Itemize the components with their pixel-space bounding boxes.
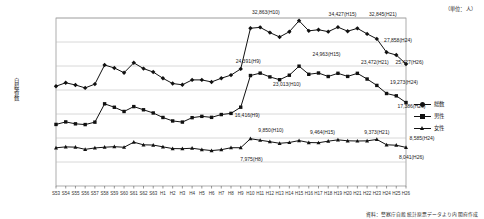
x-axis-tick-label: H6 — [209, 191, 215, 196]
data-point-label: 23,013(H10) — [273, 81, 301, 87]
x-axis-tick-label: H15 — [295, 191, 303, 196]
x-axis-tick-label: H16 — [305, 191, 313, 196]
x-axis-tick-label: H8 — [228, 191, 234, 196]
x-axis-tick-label: S61 — [130, 191, 138, 196]
x-axis-tick-label: H2 — [170, 191, 176, 196]
x-axis-tick-label: H22 — [363, 191, 371, 196]
x-axis-tick-label: H23 — [373, 191, 381, 196]
data-point-label: 9,464(H15) — [310, 129, 335, 135]
data-point-label: 8,041(H26) — [399, 154, 424, 160]
data-point-label: 32,845(H21) — [369, 11, 397, 17]
x-axis-tick-label: H10 — [246, 191, 254, 196]
x-axis-tick-label: H25 — [392, 191, 400, 196]
plot-area — [0, 0, 484, 219]
data-point-label: 9,373(H21) — [364, 129, 389, 135]
legend-label: 女性 — [434, 122, 444, 134]
x-axis-tick-label: H3 — [179, 191, 185, 196]
data-point-label: 16,416(H9) — [235, 112, 260, 118]
x-axis-tick-label: S57 — [91, 191, 99, 196]
x-axis-tick-label: H5 — [199, 191, 205, 196]
x-axis-tick-label: S59 — [110, 191, 118, 196]
x-axis-tick-label: S63 — [149, 191, 157, 196]
data-point-label: 24,391(H9) — [236, 58, 261, 64]
legend-label: 男性 — [434, 110, 444, 122]
x-axis-tick-label: H26 — [402, 191, 410, 196]
x-axis-tick-label: S55 — [71, 191, 79, 196]
x-axis-tick-label: H17 — [314, 191, 322, 196]
legend-marker-icon — [414, 128, 431, 129]
data-point-label: 34,427(H15) — [329, 11, 357, 17]
legend-item: 男性 — [414, 110, 444, 122]
unit-note: （単位：人） — [445, 5, 476, 12]
data-point-label: 8,585(H24) — [409, 135, 434, 141]
x-axis-tick-label: H9 — [238, 191, 244, 196]
data-point-label: 25,427(H26) — [396, 59, 424, 65]
legend-marker-icon — [414, 104, 431, 105]
x-axis-tick-label: S60 — [120, 191, 128, 196]
x-axis-tick-label: S58 — [101, 191, 109, 196]
chart-legend: 総数男性女性 — [414, 98, 444, 134]
x-axis-tick-label: H24 — [382, 191, 390, 196]
data-point-label: 7,975(H8) — [240, 156, 262, 162]
x-axis-tick-label: S62 — [139, 191, 147, 196]
x-axis-tick-label: S54 — [62, 191, 70, 196]
data-point-label: 27,858(H24) — [384, 37, 412, 43]
x-axis-tick-label: H20 — [344, 191, 352, 196]
source-note: 資料：警察庁自殺統計原票データより内閣府作成 — [366, 210, 478, 217]
x-axis-tick-label: H14 — [285, 191, 293, 196]
x-axis-tick-label: H21 — [353, 191, 361, 196]
x-axis-tick-label: H19 — [334, 191, 342, 196]
x-axis-tick-label: H7 — [218, 191, 224, 196]
legend-item: 総数 — [414, 98, 444, 110]
data-point-label: 9,850(H10) — [258, 127, 283, 133]
data-point-label: 19,273(H24) — [390, 79, 418, 85]
suicide-trend-chart: （単位：人） 自殺者数 35,00030,00025,00020,00015,0… — [0, 0, 484, 219]
data-point-label: 32,863(H10) — [252, 9, 280, 15]
x-axis-tick-label: H11 — [256, 191, 264, 196]
data-point-label: 23,472(H21) — [361, 59, 389, 65]
legend-label: 総数 — [434, 98, 444, 110]
x-axis-tick-label: H18 — [324, 191, 332, 196]
x-axis-tick-label: S56 — [81, 191, 89, 196]
x-axis-tick-label: H1 — [160, 191, 166, 196]
legend-marker-icon — [414, 116, 431, 117]
x-axis-tick-label: H4 — [189, 191, 195, 196]
x-axis-tick-label: H12 — [266, 191, 274, 196]
legend-item: 女性 — [414, 122, 444, 134]
data-point-label: 24,963(H15) — [313, 51, 341, 57]
y-axis-ticks: 35,00030,00025,00020,00015,00010,0005,00… — [0, 0, 56, 219]
x-axis-tick-label: S53 — [52, 191, 60, 196]
x-axis-tick-label: H13 — [275, 191, 283, 196]
